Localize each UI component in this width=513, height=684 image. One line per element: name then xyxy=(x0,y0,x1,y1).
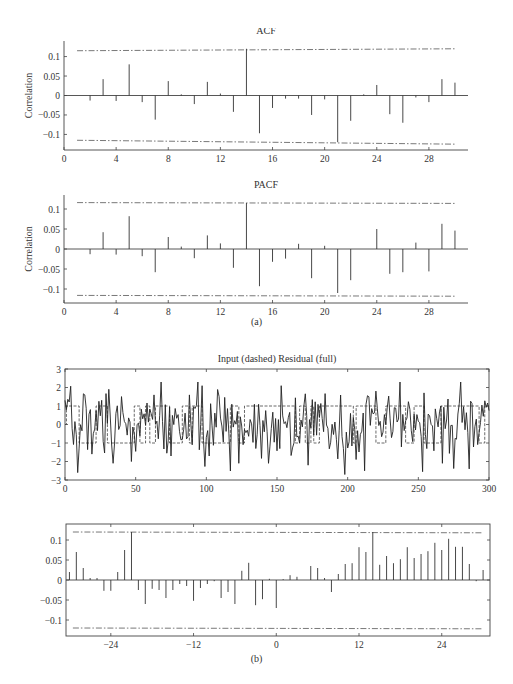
y-axis-label: Correlation xyxy=(23,73,34,119)
x-tick-label: 0 xyxy=(274,640,279,650)
y-tick-label: 3 xyxy=(56,365,61,375)
pacf-plot: PACFCorrelation−0.1−0.0500.050.104812162… xyxy=(0,181,513,321)
x-tick-label: 300 xyxy=(482,484,497,494)
lower-confidence-bound xyxy=(73,628,483,629)
cross-correlation-plot: −0.1−0.0500.050.1−24−1201224 xyxy=(0,515,513,655)
x-tick-label: 0 xyxy=(62,154,67,164)
x-tick-label: 0 xyxy=(63,484,68,494)
x-tick-label: 28 xyxy=(424,154,434,164)
y-tick-label: −0.05 xyxy=(38,265,60,275)
lower-confidence-bound xyxy=(77,295,455,296)
x-tick-label: 100 xyxy=(199,484,214,494)
y-tick-label: −2 xyxy=(51,457,61,467)
y-tick-label: −1 xyxy=(51,439,61,449)
chart-title: ACF xyxy=(256,28,276,36)
x-tick-label: 4 xyxy=(114,154,119,164)
y-tick-label: −0.1 xyxy=(43,130,60,140)
acf-plot: ACFCorrelation−0.1−0.0500.050.1048121620… xyxy=(0,28,513,183)
y-tick-label: 0.05 xyxy=(43,225,60,235)
y-tick-label: 0 xyxy=(57,576,62,586)
caption-a: (a) xyxy=(0,316,513,327)
x-tick-label: 20 xyxy=(320,154,330,164)
lower-confidence-bound xyxy=(77,140,455,144)
chart-title: Input (dashed) Residual (full) xyxy=(218,353,337,365)
upper-confidence-bound xyxy=(77,49,455,51)
input-residual-plot: Input (dashed) Residual (full)−3−2−10123… xyxy=(0,343,513,503)
y-tick-label: 1 xyxy=(56,402,61,412)
acf-chart: ACFCorrelation−0.1−0.0500.050.1048121620… xyxy=(0,28,513,183)
input-residual-chart: Input (dashed) Residual (full)−3−2−10123… xyxy=(0,343,513,503)
x-tick-label: 200 xyxy=(341,484,356,494)
caption-b: (b) xyxy=(0,653,513,664)
y-tick-label: 0.05 xyxy=(45,556,62,566)
y-tick-label: −0.05 xyxy=(40,596,62,606)
x-tick-label: 16 xyxy=(268,154,278,164)
x-tick-label: 24 xyxy=(372,154,382,164)
y-tick-label: −0.1 xyxy=(43,285,60,295)
y-tick-label: 0.1 xyxy=(48,205,60,215)
x-tick-label: 150 xyxy=(270,484,285,494)
pacf-chart: PACFCorrelation−0.1−0.0500.050.104812162… xyxy=(0,181,513,321)
x-tick-label: 24 xyxy=(437,640,447,650)
x-tick-label: −12 xyxy=(186,640,201,650)
y-tick-label: 0.1 xyxy=(48,52,60,62)
upper-confidence-bound xyxy=(77,203,455,204)
y-tick-label: 0 xyxy=(55,245,60,255)
y-tick-label: 2 xyxy=(56,383,61,393)
residual-series-line xyxy=(65,382,489,475)
y-tick-label: −3 xyxy=(51,476,61,486)
y-tick-label: −0.05 xyxy=(38,110,60,120)
upper-confidence-bound xyxy=(73,532,483,533)
x-tick-label: 250 xyxy=(411,484,426,494)
cross-correlation-chart: −0.1−0.0500.050.1−24−1201224 xyxy=(0,515,513,655)
y-tick-label: 0 xyxy=(56,420,61,430)
y-tick-label: −0.1 xyxy=(45,616,62,626)
x-tick-label: 12 xyxy=(216,154,226,164)
x-tick-label: 12 xyxy=(354,640,364,650)
x-tick-label: 8 xyxy=(166,154,171,164)
y-axis-label: Correlation xyxy=(23,226,34,272)
x-tick-label: 50 xyxy=(131,484,141,494)
y-tick-label: 0 xyxy=(55,91,60,101)
y-tick-label: 0.1 xyxy=(50,536,62,546)
x-tick-label: −24 xyxy=(103,640,118,650)
chart-title: PACF xyxy=(254,181,279,190)
y-tick-label: 0.05 xyxy=(43,72,60,82)
